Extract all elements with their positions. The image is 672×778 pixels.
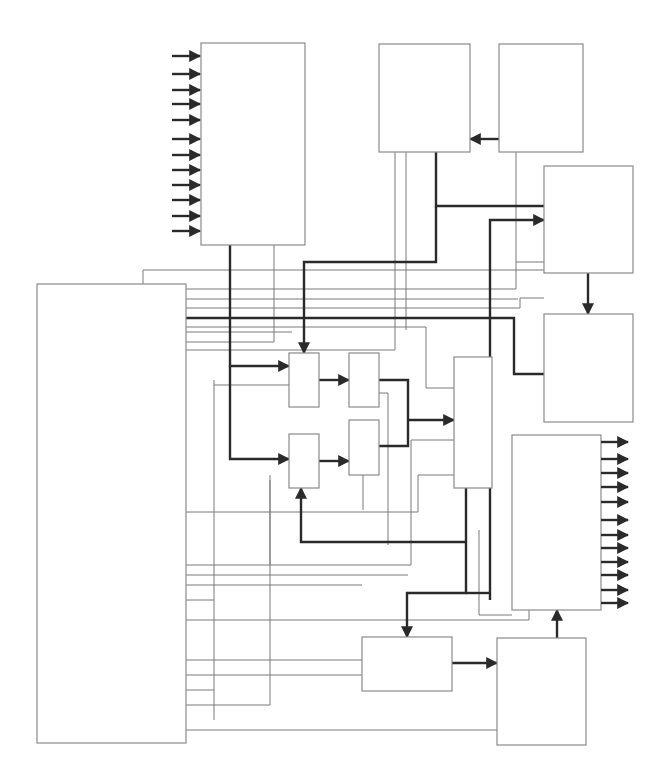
combiner-block [454, 357, 492, 488]
thin-wire [479, 530, 512, 615]
stage2-top-block [349, 353, 379, 407]
thin-wire [186, 610, 529, 620]
thick-wire [304, 206, 436, 353]
thin-wire [186, 440, 454, 565]
thick-wire [379, 380, 408, 446]
thin-wire [186, 480, 270, 705]
thick-wire [230, 366, 289, 459]
bottom-right-block [497, 638, 586, 745]
thick-wire [301, 488, 466, 542]
thick-wire [407, 488, 466, 637]
right-middle-block [544, 314, 633, 422]
thin-wire [143, 270, 544, 284]
blocks [37, 43, 633, 745]
top-middle-block [379, 44, 470, 152]
input-block [201, 43, 305, 245]
thin-wire [186, 327, 426, 342]
thick-wire [436, 152, 544, 206]
stage2-bottom-block [349, 420, 379, 475]
stage1-bottom-block [289, 434, 319, 488]
block-diagram [0, 0, 672, 778]
main-left-block [37, 284, 186, 743]
thin-wire [186, 475, 454, 512]
thin-wire [426, 342, 454, 388]
output-block [512, 435, 601, 610]
thin-wire [379, 393, 388, 545]
right-upper-block [544, 166, 633, 273]
top-right-block [499, 44, 583, 152]
thick-wire [230, 245, 289, 366]
bottom-middle-block [362, 637, 452, 691]
stage1-top-block [289, 353, 319, 407]
